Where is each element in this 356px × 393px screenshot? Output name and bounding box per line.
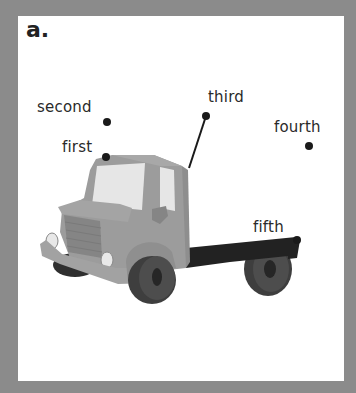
dot-third [202,112,210,120]
front-wheel [128,256,176,304]
grille [64,215,102,258]
label-fifth: fifth [253,218,284,236]
dot-fifth [293,236,301,244]
dot-first [102,153,110,161]
label-second: second [37,98,92,116]
truck-illustration [0,0,356,393]
label-third: third [208,88,244,106]
dot-fourth [305,142,313,150]
dot-second [103,118,111,126]
antenna-line [189,116,206,168]
side-window [160,167,175,211]
label-first: first [62,138,92,156]
label-fourth: fourth [274,118,321,136]
